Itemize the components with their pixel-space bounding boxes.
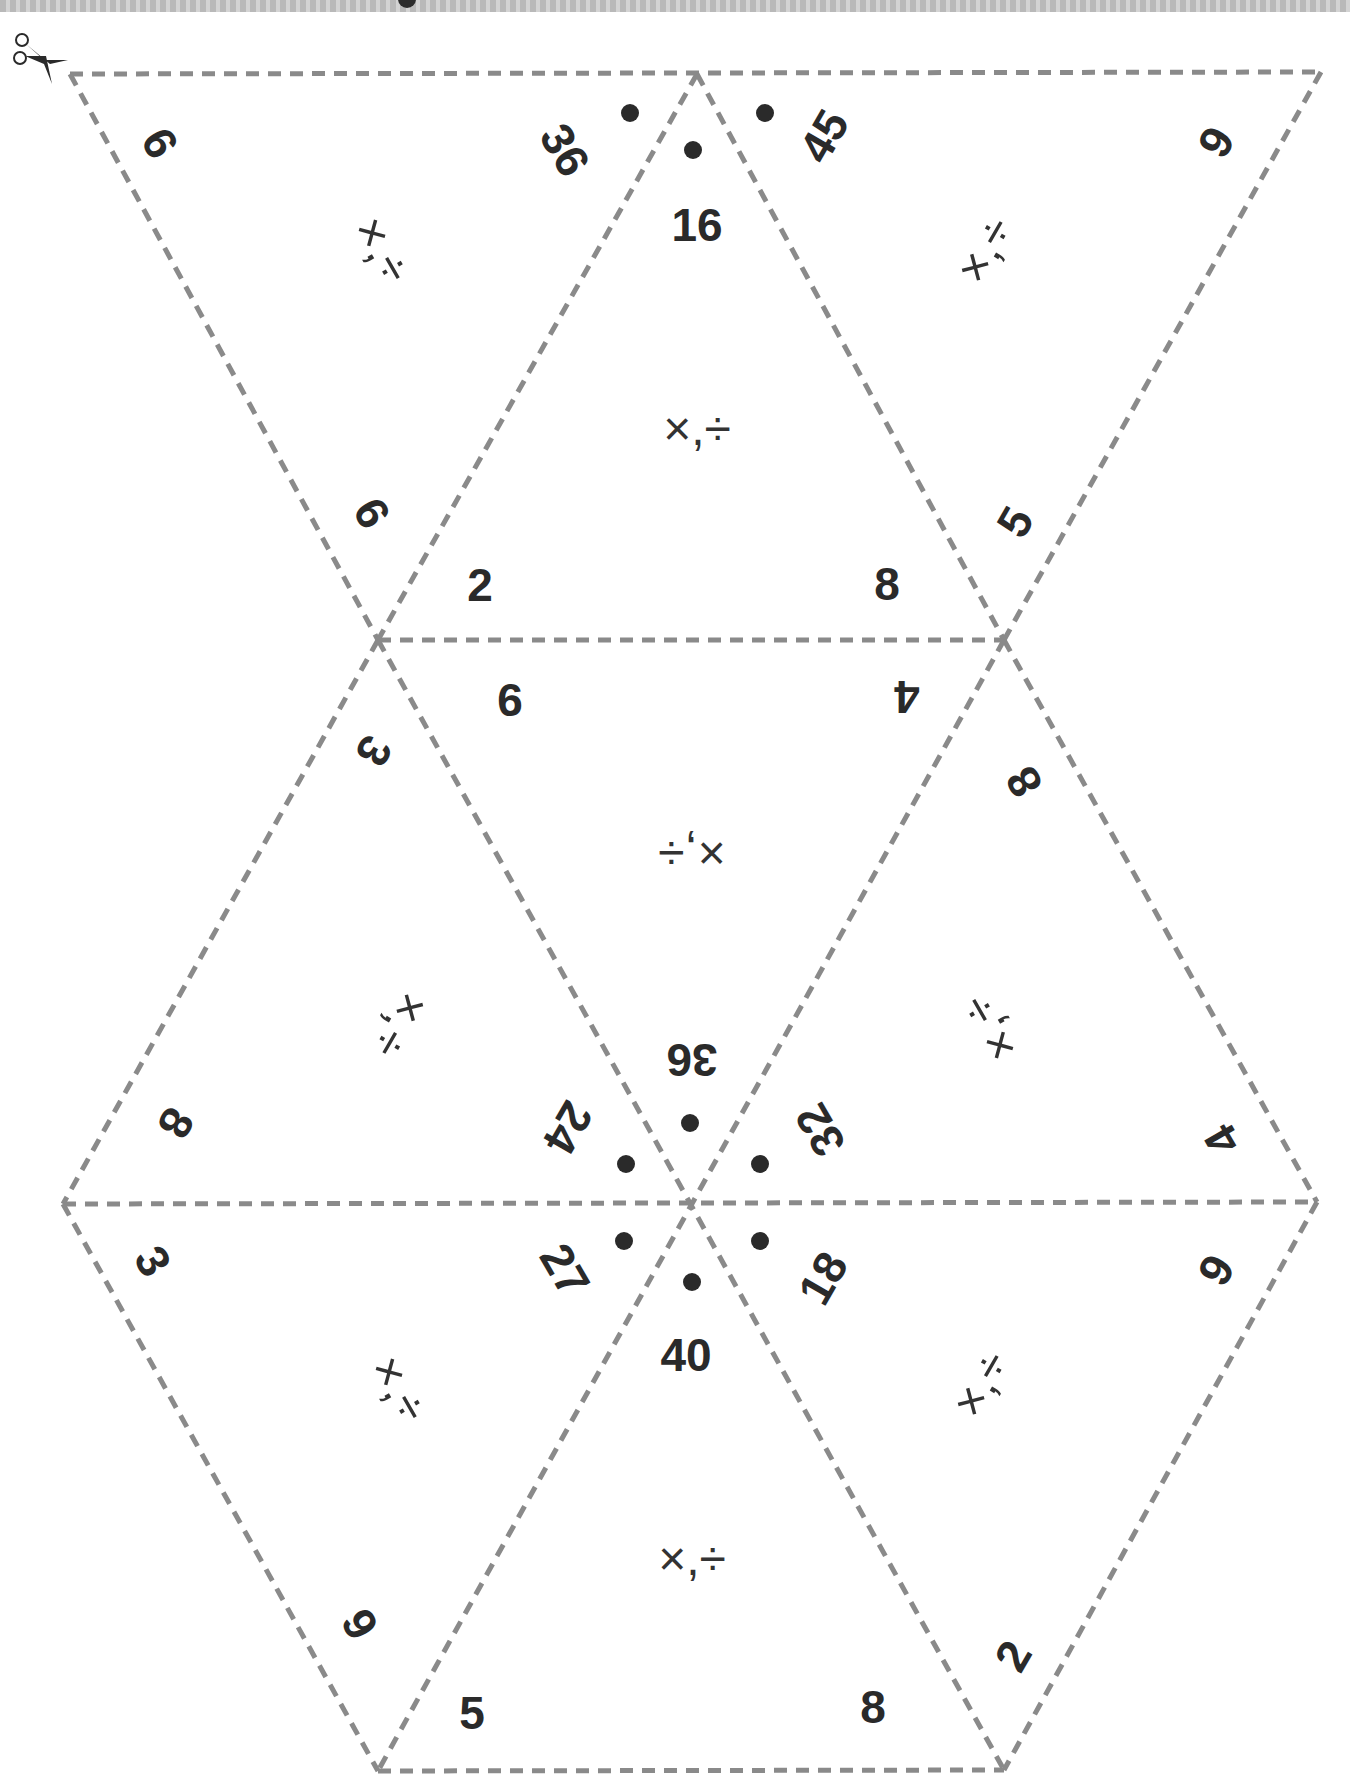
cut-lines — [0, 0, 1350, 1778]
dot-marker — [681, 1114, 699, 1132]
dot-marker — [684, 141, 702, 159]
t8-label-top: 40 — [660, 1332, 711, 1378]
t4-label-a: 9 — [497, 677, 523, 723]
t4-label-c: 36 — [666, 1037, 717, 1083]
t4-operations: ×,÷ — [658, 829, 726, 877]
dot-marker — [621, 104, 639, 122]
t2-label-right: 8 — [874, 561, 900, 607]
t4-label-b: 4 — [894, 674, 920, 720]
dot-marker — [683, 1273, 701, 1291]
t8-label-right: 8 — [860, 1684, 886, 1730]
dot-marker — [751, 1232, 769, 1250]
dot-marker — [751, 1155, 769, 1173]
t2-label-left: 2 — [467, 562, 493, 608]
dot-marker — [615, 1232, 633, 1250]
dot-marker — [617, 1155, 635, 1173]
dot-marker — [756, 104, 774, 122]
t8-operations: ×,÷ — [658, 1535, 726, 1583]
t2-label-top: 16 — [671, 202, 722, 248]
t8-label-left: 5 — [459, 1690, 485, 1736]
t2-operations: ×,÷ — [663, 405, 731, 453]
